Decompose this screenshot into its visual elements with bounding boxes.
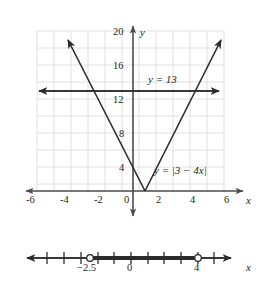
- x-tick-6: 6: [224, 195, 229, 206]
- y-tick-8: 8: [119, 129, 124, 140]
- x-tick-4: 4: [190, 195, 195, 206]
- y-tick-12: 12: [113, 95, 124, 106]
- open-endpoint-left: [87, 255, 94, 262]
- x-tick-neg2: -2: [94, 195, 103, 206]
- label-line-y-equals-13: y = 13: [148, 74, 177, 85]
- number-line-tick-neg2point5: −2.5: [77, 263, 96, 274]
- y-axis-label: y: [140, 27, 145, 38]
- label-curve-abs-value: y = |3 − 4x|: [154, 165, 207, 176]
- x-tick-2: 2: [156, 195, 161, 206]
- number-line-tick-0: 0: [127, 263, 132, 274]
- y-tick-20: 20: [113, 27, 124, 38]
- open-endpoint-right: [195, 255, 202, 262]
- number-line-x-label: x: [246, 262, 251, 273]
- x-tick-neg4: -4: [60, 195, 69, 206]
- x-tick-0: 0: [124, 195, 129, 206]
- y-tick-4: 4: [119, 163, 124, 174]
- x-tick-neg6: -6: [26, 195, 35, 206]
- coordinate-axes: [26, 26, 243, 216]
- math-figure: y x 20 16 12 8 4 -6 -4 -2 0 2 4 6 y = 13…: [0, 0, 268, 284]
- x-axis-label: x: [246, 195, 251, 206]
- y-tick-16: 16: [113, 61, 124, 72]
- number-line-tick-4: 4: [194, 263, 199, 274]
- figure-canvas: [0, 0, 268, 284]
